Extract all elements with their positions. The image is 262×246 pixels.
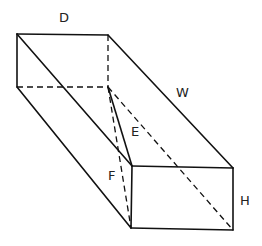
label-h: H xyxy=(240,194,250,207)
prism-diagram: D W E F H xyxy=(0,0,262,246)
front-left-edge xyxy=(131,166,132,228)
diagonal-f xyxy=(108,87,131,228)
label-w: W xyxy=(176,86,189,99)
diagonal-e xyxy=(108,87,132,166)
front-bottom-edge xyxy=(131,228,233,230)
front-top-edge xyxy=(132,166,233,168)
bottom-right-hidden-long-edge xyxy=(108,87,233,230)
label-d: D xyxy=(59,11,69,24)
label-f: F xyxy=(108,169,115,182)
back-top-edge xyxy=(17,34,108,35)
prism-drawing xyxy=(0,0,262,246)
label-e: E xyxy=(131,125,139,138)
top-left-long-edge xyxy=(17,34,132,166)
